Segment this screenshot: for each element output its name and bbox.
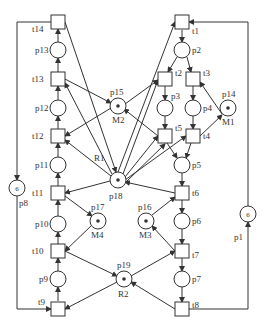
place-circle[interactable] (174, 213, 190, 229)
place-circle[interactable] (185, 100, 201, 116)
transition-label: t14 (32, 24, 44, 34)
resource-name: M4 (91, 230, 104, 240)
resource-name: R1 (94, 153, 105, 163)
transition-label: t3 (203, 68, 211, 78)
transition-t11[interactable]: t11 (32, 186, 65, 200)
arc (65, 83, 112, 174)
transition-box[interactable] (186, 129, 200, 143)
transition-t3[interactable]: t3 (186, 68, 211, 86)
transition-box[interactable] (158, 72, 172, 86)
transition-t5[interactable]: t5 (158, 123, 183, 143)
transition-box[interactable] (175, 186, 189, 200)
transition-box[interactable] (175, 15, 189, 29)
transition-label: t9 (38, 297, 46, 307)
place-p9[interactable]: p9 (39, 271, 66, 287)
place-label: p11 (35, 160, 48, 170)
place-label: p12 (35, 103, 49, 113)
place-p17[interactable]: p17M4 (90, 202, 106, 240)
transition-t14[interactable]: t14 (32, 15, 65, 34)
transition-t13[interactable]: t13 (32, 72, 65, 86)
token-dot (144, 219, 148, 223)
arc (124, 109, 158, 136)
transition-t6[interactable]: t6 (175, 186, 200, 200)
place-label: p16 (138, 202, 152, 212)
resource-name: M1 (222, 117, 235, 127)
place-p11[interactable]: p11 (35, 157, 66, 173)
transition-t9[interactable]: t9 (38, 297, 65, 316)
arc (65, 181, 110, 193)
resource-name: M2 (112, 115, 125, 125)
place-p14[interactable]: p14M1 (220, 89, 236, 127)
arc (152, 197, 175, 215)
place-label: p14 (222, 89, 236, 99)
place-label: p10 (35, 219, 49, 229)
transition-t1[interactable]: t1 (175, 15, 199, 36)
transition-box[interactable] (51, 129, 65, 143)
transition-t2[interactable]: t2 (158, 68, 182, 86)
place-label: p3 (171, 91, 181, 101)
place-p18[interactable]: p18R1 (94, 153, 126, 201)
place-label: p19 (117, 260, 131, 270)
place-p12[interactable]: p12 (35, 100, 66, 116)
place-circle[interactable] (157, 100, 173, 116)
place-circle[interactable] (50, 157, 66, 173)
place-p16[interactable]: p16M3 (138, 202, 154, 240)
transition-label: t1 (192, 26, 199, 36)
transition-t8[interactable]: t8 (175, 300, 200, 316)
token-dot (122, 277, 126, 281)
transition-t7[interactable]: t7 (175, 244, 200, 260)
transition-box[interactable] (51, 186, 65, 200)
token-count: 6 (15, 185, 19, 193)
place-circle[interactable] (174, 271, 190, 287)
transition-label: t2 (175, 68, 182, 78)
place-label: p5 (192, 160, 202, 170)
transition-label: t11 (32, 188, 43, 198)
place-label: p13 (35, 45, 49, 55)
token-dot (96, 219, 100, 223)
token-dot (116, 178, 120, 182)
place-circle[interactable] (50, 216, 66, 232)
arc (131, 251, 175, 276)
transition-box[interactable] (51, 302, 65, 316)
place-circle[interactable] (50, 42, 66, 58)
place-circle[interactable] (174, 157, 190, 173)
transition-label: t13 (32, 74, 44, 84)
transition-t12[interactable]: t12 (32, 129, 65, 143)
place-p7[interactable]: p7 (174, 271, 202, 287)
petri-net-svg: t1t2t3t4t5t6t7t8t9t10t11t12t13t146p1p2p3… (0, 0, 264, 322)
place-p2[interactable]: p2 (174, 42, 201, 58)
place-p10[interactable]: p10 (35, 216, 66, 232)
transition-label: t4 (203, 131, 211, 141)
petri-net-diagram: t1t2t3t4t5t6t7t8t9t10t11t12t13t146p1p2p3… (0, 0, 264, 322)
place-circle[interactable] (50, 100, 66, 116)
arc (152, 226, 175, 251)
transition-box[interactable] (186, 72, 200, 86)
transition-box[interactable] (51, 244, 65, 258)
place-p6[interactable]: p6 (174, 213, 202, 229)
place-label: p15 (110, 87, 124, 97)
place-p8[interactable]: 6p8 (9, 180, 29, 208)
place-p19[interactable]: p19R2 (116, 260, 132, 299)
place-circle[interactable] (50, 271, 66, 287)
nodes-layer: t1t2t3t4t5t6t7t8t9t10t11t12t13t146p1p2p3… (9, 15, 256, 316)
transition-box[interactable] (158, 129, 172, 143)
transition-t4[interactable]: t4 (186, 129, 211, 143)
place-p4[interactable]: p4 (185, 100, 213, 116)
place-p15[interactable]: p15M2 (110, 87, 126, 125)
place-circle[interactable] (174, 42, 190, 58)
transition-box[interactable] (175, 244, 189, 258)
transition-label: t8 (192, 300, 200, 310)
place-p3[interactable]: p3 (157, 91, 181, 116)
arc (65, 108, 111, 136)
resource-name: M3 (139, 230, 152, 240)
place-p1[interactable]: 6p1 (234, 206, 256, 242)
transition-box[interactable] (175, 302, 189, 316)
place-p5[interactable]: p5 (174, 157, 202, 173)
arc (65, 251, 117, 276)
transition-box[interactable] (51, 72, 65, 86)
transition-box[interactable] (51, 15, 65, 29)
place-p13[interactable]: p13 (35, 42, 66, 58)
arc (167, 143, 177, 158)
place-label: p8 (19, 198, 29, 208)
transition-t10[interactable]: t10 (32, 244, 65, 258)
